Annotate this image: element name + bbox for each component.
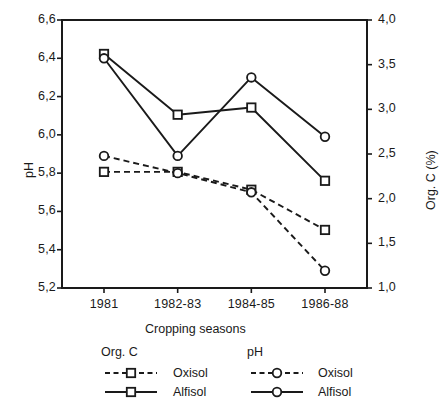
legend-ph-alfisol-marker: [273, 388, 282, 397]
legend-orgc-alfisol-marker: [127, 388, 135, 396]
legend-orgc-oxisol-marker: [127, 369, 135, 377]
chart-figure: 5,25,45,65,86,06,26,46,6 1,01,52,02,53,0…: [0, 0, 443, 407]
legend-swatches: [0, 0, 443, 407]
legend-ph-oxisol-marker: [273, 369, 282, 378]
